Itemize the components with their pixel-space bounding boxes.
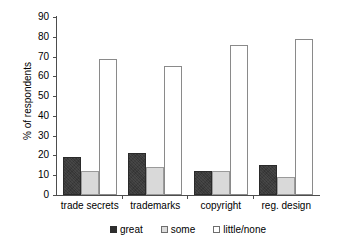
x-axis-category-labels: trade secretstrademarkscopyrightreg. des…: [57, 198, 319, 214]
x-axis-category-label: trade secrets: [57, 198, 123, 214]
y-axis-tick-label: 80: [38, 30, 49, 43]
bar-group: [57, 17, 123, 195]
bar-great: [63, 157, 81, 195]
legend-label: little/none: [223, 223, 266, 236]
legend-label: great: [120, 223, 143, 236]
y-axis-tick-label: 70: [38, 50, 49, 63]
y-axis-tick-label: 60: [38, 69, 49, 82]
chart-legend: greatsomelittle/none: [57, 222, 319, 236]
bar-littlenone: [164, 66, 182, 195]
x-axis-line: [56, 195, 320, 196]
legend-label: some: [171, 223, 195, 236]
bar-littlenone: [230, 45, 248, 195]
y-axis-tick-label: 40: [38, 109, 49, 122]
legend-item: some: [161, 223, 195, 236]
bar-great: [259, 165, 277, 195]
bar-littlenone: [295, 39, 313, 195]
bar-some: [277, 177, 295, 195]
legend-swatch-littlenone: [213, 226, 220, 233]
bar-some: [146, 167, 164, 195]
y-axis-tick-label: 90: [38, 10, 49, 23]
legend-item: little/none: [213, 223, 266, 236]
x-axis-category-label: copyright: [188, 198, 254, 214]
y-axis-tick-label: 50: [38, 89, 49, 102]
bar-great: [194, 171, 212, 195]
legend-swatch-great: [110, 226, 117, 233]
y-axis-tick-labels: 9080706050403020100: [0, 17, 57, 195]
bar-littlenone: [99, 59, 117, 195]
bar-group: [254, 17, 320, 195]
y-axis-tick-label: 30: [38, 129, 49, 142]
x-axis-category-label: reg. design: [254, 198, 320, 214]
bar-great: [128, 153, 146, 195]
legend-item: great: [110, 223, 143, 236]
y-axis-tick-label: 20: [38, 148, 49, 161]
legend-swatch-some: [161, 226, 168, 233]
bar-some: [212, 171, 230, 195]
y-axis-tick-label: 0: [43, 188, 49, 201]
plot-area: [57, 17, 319, 195]
bar-group: [188, 17, 254, 195]
bar-chart: % of respondents 9080706050403020100 tra…: [0, 0, 348, 246]
bar-group: [123, 17, 189, 195]
bar-some: [81, 171, 99, 195]
x-axis-category-label: trademarks: [123, 198, 189, 214]
y-axis-tick-label: 10: [38, 168, 49, 181]
